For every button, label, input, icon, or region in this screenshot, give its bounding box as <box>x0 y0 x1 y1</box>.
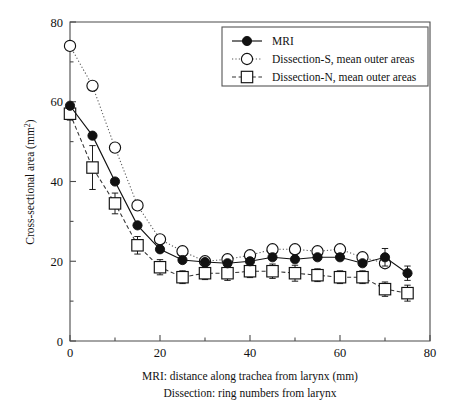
data-point-marker <box>155 245 164 254</box>
data-point-marker <box>132 240 143 251</box>
y-tick-label: 0 <box>57 335 63 349</box>
data-point-marker <box>334 272 345 283</box>
y-tick-label: 80 <box>51 16 64 30</box>
x-tick-label: 80 <box>424 346 437 360</box>
y-axis-title: Cross-sectional area (mm2) <box>23 119 38 245</box>
data-point-marker <box>357 272 368 283</box>
x-axis-title-line2: Dissection: ring numbers from larynx <box>163 387 336 400</box>
data-point-marker <box>223 259 232 268</box>
data-point-marker <box>200 257 209 266</box>
data-point-marker <box>358 259 367 268</box>
x-tick-label: 60 <box>334 346 347 360</box>
series-3 <box>64 107 413 301</box>
x-axis-title-line1: MRI: distance along trachea from larynx … <box>142 370 358 383</box>
legend-marker-sample <box>241 71 252 82</box>
data-point-marker <box>199 268 210 279</box>
x-tick-label: 0 <box>67 346 73 360</box>
data-point-marker <box>109 198 120 209</box>
data-point-marker <box>244 266 255 277</box>
series-line <box>70 106 408 273</box>
legend-label: Dissection-S, mean outer areas <box>272 53 415 66</box>
data-point-marker <box>313 253 322 262</box>
svg-text:Cross-sectional area (mm2): Cross-sectional area (mm2) <box>23 119 38 245</box>
data-point-marker <box>132 200 143 211</box>
data-point-marker <box>289 268 300 279</box>
y-axis-tick-labels: 020406080 <box>51 16 64 349</box>
legend: MRIDissection-S, mean outer areasDissect… <box>222 27 428 86</box>
data-point-marker <box>289 244 300 255</box>
y-axis-ticks <box>70 22 76 341</box>
figure-container: 020406080 020406080 Cross-sectional area… <box>0 0 456 405</box>
cross-sectional-area-chart: 020406080 020406080 Cross-sectional area… <box>0 0 456 405</box>
data-point-marker <box>110 177 119 186</box>
data-point-marker <box>178 255 187 264</box>
data-point-marker <box>268 253 277 262</box>
data-point-marker <box>380 253 389 262</box>
data-point-marker <box>267 266 278 277</box>
data-point-marker <box>88 131 97 140</box>
x-tick-label: 40 <box>244 346 257 360</box>
data-point-marker <box>154 262 165 273</box>
data-point-marker <box>402 287 413 298</box>
data-point-marker <box>64 40 75 51</box>
data-point-marker <box>133 221 142 230</box>
data-point-marker <box>177 272 188 283</box>
data-point-marker <box>87 162 98 173</box>
y-tick-label: 60 <box>51 95 64 109</box>
data-point-marker <box>403 269 412 278</box>
data-point-marker <box>222 268 233 279</box>
y-axis-title-text: Cross-sectional area (mm <box>24 127 37 245</box>
data-point-marker <box>245 257 254 266</box>
x-axis-ticks <box>70 335 430 341</box>
legend-marker-sample <box>241 53 252 64</box>
data-point-marker <box>154 234 165 245</box>
y-tick-label: 40 <box>51 175 64 189</box>
x-tick-label: 20 <box>154 346 167 360</box>
data-point-marker <box>335 253 344 262</box>
legend-label: Dissection-N, mean outer areas <box>272 71 417 84</box>
legend-marker-sample <box>242 36 251 45</box>
x-axis-tick-labels: 020406080 <box>67 346 436 360</box>
y-tick-label: 20 <box>51 255 64 269</box>
data-point-marker <box>290 255 299 264</box>
legend-label: MRI <box>272 35 294 47</box>
x-axis-title: MRI: distance along trachea from larynx … <box>142 370 358 400</box>
data-point-marker <box>312 270 323 281</box>
data-point-marker <box>109 142 120 153</box>
data-point-marker <box>379 283 390 294</box>
data-point-marker <box>65 101 74 110</box>
data-point-marker <box>87 80 98 91</box>
